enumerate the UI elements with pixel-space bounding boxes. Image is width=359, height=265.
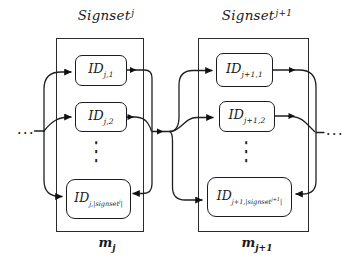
id-base: ID <box>217 188 232 203</box>
id-box-j-1-label: IDj,1 <box>88 62 114 79</box>
signset-right-title-superscript: j+1 <box>275 8 292 18</box>
vertical-ellipsis-right: ⋮ <box>237 138 255 164</box>
midline-arrowhead-r1 <box>289 67 296 73</box>
message-label-mj: mj <box>98 235 115 253</box>
id-subscript-superscript: j+1 <box>271 196 280 202</box>
signset-right-title-text: Signset <box>222 7 275 23</box>
arrow-into-box-r2 <box>170 118 213 132</box>
id-subscript: j,2 <box>104 117 114 126</box>
signset-left-title-superscript: j <box>131 8 134 18</box>
id-subscript: j+1,1 <box>242 70 264 79</box>
id-subscript: j,|signsetj| <box>89 200 123 208</box>
wire-l1-output-bus <box>125 70 152 194</box>
id-base: ID <box>226 61 242 76</box>
wire-r1-output-bus <box>272 70 317 194</box>
message-label-base: m <box>242 235 256 250</box>
id-box-j-last-label: IDj,|signsetj| <box>74 191 123 208</box>
arrow-into-box-r1 <box>170 71 212 132</box>
id-subscript-pre: j,|signset <box>89 200 119 208</box>
id-box-j-2-label: IDj,2 <box>88 109 114 126</box>
arrow-into-box-l2 <box>44 117 71 131</box>
id-subscript-post: | <box>280 198 282 206</box>
midline-arrowhead-r2 <box>289 113 296 119</box>
id-box-j1-2: IDj+1,2 <box>219 101 275 132</box>
id-box-j1-2-label: IDj+1,2 <box>228 108 265 125</box>
id-box-j-2: IDj,2 <box>75 102 127 132</box>
midline-arrowhead-junction <box>157 128 164 134</box>
id-base: ID <box>74 190 89 205</box>
id-box-j1-last: IDj+1,|signsetj+1| <box>207 177 292 217</box>
id-base: ID <box>88 61 104 76</box>
message-label-subscript: j <box>112 243 115 253</box>
signset-right-title: Signsetj+1 <box>222 7 292 23</box>
id-box-j1-1: IDj+1,1 <box>216 53 273 87</box>
message-label-subscript: j+1 <box>255 243 272 253</box>
signset-left-title-text: Signset <box>78 7 131 23</box>
message-label-mj1: mj+1 <box>242 235 273 253</box>
id-base: ID <box>228 107 244 122</box>
wire-r2-output-merge <box>274 116 315 132</box>
arrow-into-box-l3 <box>44 131 62 197</box>
midline-arrowhead-l2 <box>128 114 135 120</box>
id-box-j1-1-label: IDj+1,1 <box>226 62 263 79</box>
connector-layer <box>0 0 359 265</box>
arrow-into-box-r3 <box>170 132 202 201</box>
horizontal-ellipsis-left: ... <box>17 122 35 136</box>
signset-left-title: Signsetj <box>78 7 135 23</box>
horizontal-ellipsis-right: ... <box>326 123 344 137</box>
arrow-into-box-l1 <box>44 72 71 131</box>
id-box-j-last: IDj,|signsetj| <box>66 179 131 219</box>
midline-arrowhead-l1 <box>130 67 137 73</box>
id-subscript: j+1,2 <box>244 116 266 125</box>
id-subscript: j+1,|signsetj+1| <box>232 198 283 206</box>
id-box-j1-last-label: IDj+1,|signsetj+1| <box>217 189 283 206</box>
id-subscript-post: | <box>121 200 123 208</box>
signset-chain-diagram: Signsetj Signsetj+1 IDj,1 IDj,2 IDj,|sig… <box>0 0 359 265</box>
id-subscript: j,1 <box>104 70 114 79</box>
id-subscript-pre: j+1,|signset <box>232 198 271 206</box>
message-label-base: m <box>98 235 112 250</box>
vertical-ellipsis-left: ⋮ <box>87 138 105 164</box>
id-box-j-1: IDj,1 <box>75 55 127 86</box>
id-base: ID <box>88 108 104 123</box>
